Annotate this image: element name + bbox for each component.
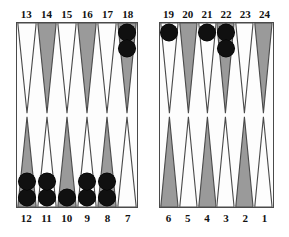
point-labels-top-right: 192021222324 [159,7,274,21]
point-23[interactable] [235,23,254,115]
point-triangle-2 [235,115,254,207]
point-triangle-16 [77,23,97,115]
board-half-left [16,22,138,208]
point-label-15: 15 [57,7,77,21]
checker[interactable] [19,173,36,190]
point-labels-bottom-left: 121110987 [16,211,138,225]
board-half-right [159,22,274,208]
point-triangle-4 [198,115,217,207]
point-label-3: 3 [217,211,236,225]
point-label-6: 6 [159,211,178,225]
point-labels-top-left: 131415161718 [16,7,138,21]
checker[interactable] [161,24,178,41]
point-triangle-24 [254,23,273,115]
point-5[interactable] [179,115,198,207]
checker[interactable] [39,189,56,206]
point-16[interactable] [77,23,97,115]
point-2[interactable] [235,115,254,207]
quadrant-top-right [160,23,273,115]
point-triangle-23 [235,23,254,115]
point-triangle-17 [97,23,117,115]
point-label-17: 17 [97,7,117,21]
point-triangle-1 [254,115,273,207]
quadrant-top-left [17,23,137,115]
point-triangle-5 [179,115,198,207]
point-10[interactable] [57,115,77,207]
point-label-1: 1 [255,211,274,225]
checker[interactable] [119,24,136,41]
point-20[interactable] [179,23,198,115]
point-3[interactable] [216,115,235,207]
point-8[interactable] [97,115,117,207]
checker[interactable] [199,24,216,41]
point-triangle-6 [160,115,179,207]
point-17[interactable] [97,23,117,115]
point-label-10: 10 [57,211,77,225]
point-7[interactable] [117,115,137,207]
point-18[interactable] [117,23,137,115]
point-14[interactable] [37,23,57,115]
point-label-23: 23 [236,7,255,21]
checker[interactable] [119,40,136,57]
point-label-18: 18 [118,7,138,21]
backgammon-board: 131415161718 192021222324 121110987 6543… [0,0,289,237]
point-labels-bottom-right: 654321 [159,211,274,225]
point-24[interactable] [254,23,273,115]
point-1[interactable] [254,115,273,207]
checker[interactable] [217,24,234,41]
point-9[interactable] [77,115,97,207]
point-4[interactable] [198,115,217,207]
point-15[interactable] [57,23,77,115]
point-label-11: 11 [36,211,56,225]
point-triangle-15 [57,23,77,115]
point-triangle-14 [37,23,57,115]
point-triangle-7 [117,115,137,207]
point-triangle-20 [179,23,198,115]
point-label-19: 19 [159,7,178,21]
point-label-20: 20 [178,7,197,21]
point-label-21: 21 [197,7,216,21]
checker[interactable] [99,173,116,190]
checker[interactable] [217,40,234,57]
point-6[interactable] [160,115,179,207]
checker[interactable] [79,173,96,190]
checker[interactable] [59,189,76,206]
point-label-12: 12 [16,211,36,225]
point-21[interactable] [198,23,217,115]
quadrant-bottom-left [17,115,137,207]
checker[interactable] [19,189,36,206]
point-label-24: 24 [255,7,274,21]
point-19[interactable] [160,23,179,115]
checker[interactable] [39,173,56,190]
point-label-22: 22 [217,7,236,21]
point-label-14: 14 [36,7,56,21]
point-22[interactable] [216,23,235,115]
point-label-2: 2 [236,211,255,225]
point-label-7: 7 [118,211,138,225]
point-12[interactable] [17,115,37,207]
point-triangle-3 [216,115,235,207]
point-label-16: 16 [77,7,97,21]
checker[interactable] [79,189,96,206]
point-triangle-13 [17,23,37,115]
point-label-8: 8 [97,211,117,225]
point-label-9: 9 [77,211,97,225]
point-label-13: 13 [16,7,36,21]
checker[interactable] [99,189,116,206]
point-label-4: 4 [197,211,216,225]
point-13[interactable] [17,23,37,115]
point-label-5: 5 [178,211,197,225]
point-11[interactable] [37,115,57,207]
quadrant-bottom-right [160,115,273,207]
